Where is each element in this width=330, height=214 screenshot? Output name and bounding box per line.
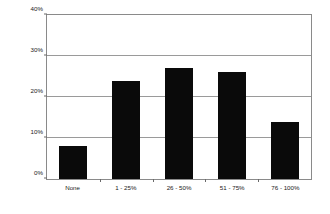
x-tick-label: 51 - 75% [206, 184, 259, 192]
x-tick-mark [153, 179, 154, 182]
x-tick-label: 1 - 25% [99, 184, 152, 192]
bar[interactable] [165, 68, 193, 179]
x-tick-mark [205, 179, 206, 182]
bar-chart-figure: Percent of respondents 0%10%20%30%40% No… [0, 0, 330, 214]
y-tick-label: 0% [34, 169, 43, 176]
x-tick-mark [258, 179, 259, 182]
y-tick-label: 40% [31, 5, 43, 12]
bar-slot [100, 15, 153, 179]
x-tick-label: 76 - 100% [259, 184, 312, 192]
x-axis-labels: None1 - 25%26 - 50%51 - 75%76 - 100% [46, 184, 312, 192]
bars-container [47, 15, 311, 179]
x-tick-mark [100, 179, 101, 182]
x-tick-label: None [46, 184, 99, 192]
bar-slot [153, 15, 206, 179]
bar[interactable] [112, 81, 140, 179]
bar-slot [258, 15, 311, 179]
y-tick-label: 10% [31, 128, 43, 135]
bar-slot [205, 15, 258, 179]
bar[interactable] [59, 146, 87, 179]
plot-area: 0%10%20%30%40% [46, 14, 312, 180]
bar-slot [47, 15, 100, 179]
x-tick-label: 26 - 50% [152, 184, 205, 192]
y-axis-title: Percent of respondents [14, 180, 28, 214]
bar[interactable] [271, 122, 299, 179]
y-tick-label: 20% [31, 87, 43, 94]
y-tick-label: 30% [31, 46, 43, 53]
bar[interactable] [218, 72, 246, 179]
